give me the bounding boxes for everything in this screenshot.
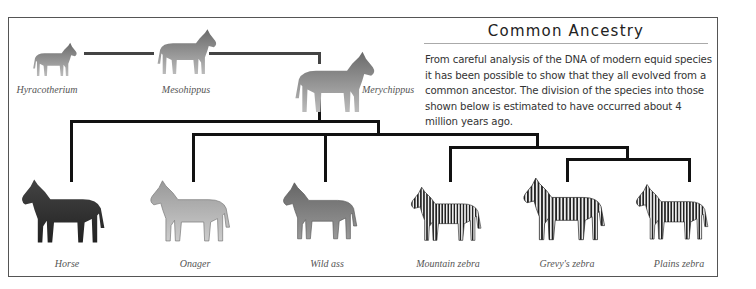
wild-ass-illustration [280,174,360,246]
stem-horse [70,120,73,182]
mesohippus-illustration [155,24,219,78]
label-hyracotherium: Hyracotherium [0,84,102,95]
branch-node4 [566,158,691,161]
label-mesohippus: Mesohippus [131,84,241,95]
label-wild-ass: Wild ass [272,258,382,269]
merychippus-illustration [292,46,378,116]
label-grevys-zebra: Grevy's zebra [512,258,622,269]
label-mountain-zebra: Mountain zebra [393,258,503,269]
branch-node2 [192,133,539,136]
label-plains-zebra: Plains zebra [624,258,734,269]
stem-mountain-zebra [449,146,452,182]
title-divider [424,43,708,44]
description-text: From careful analysis of the DNA of mode… [425,52,715,130]
plains-zebra-illustration [633,176,711,246]
label-onager: Onager [140,258,250,269]
horse-illustration [14,174,112,246]
onager-illustration [147,174,233,246]
branch-node3 [449,146,629,149]
label-merychippus: Merychippus [333,84,443,95]
branch-root [70,120,380,123]
lineage-line-hyraco-meso [84,52,154,55]
grevys-zebra-illustration [520,170,608,246]
label-horse: Horse [12,258,122,269]
mountain-zebra-illustration [408,180,484,246]
diagram-title: Common Ancestry [424,22,708,40]
hyracotherium-illustration [28,40,82,78]
